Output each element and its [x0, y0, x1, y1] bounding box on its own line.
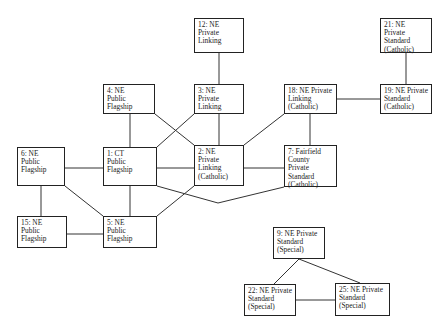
edge-18-2	[244, 114, 284, 145]
node-2: 2: NE Private Linking (Catholic)	[194, 145, 244, 186]
edge-6-5	[65, 186, 103, 216]
edge-9-22	[274, 259, 299, 284]
edge-2-5	[157, 186, 194, 216]
node-5: 5: NE Public Flagship	[103, 216, 157, 248]
node-22: 22: NE Private Standard (Special)	[244, 284, 296, 316]
node-1: 1: CT Public Flagship	[103, 147, 157, 186]
node-21: 21: NE Private Standard (Catholic)	[380, 18, 432, 53]
node-9: 9: NE Private Standard (Special)	[273, 227, 325, 259]
network-diagram: 12: NE Private Linking21: NE Private Sta…	[0, 0, 448, 333]
node-7: 7: Fairfield County Private Standard (Ca…	[284, 145, 337, 187]
node-15: 15: NE Public Flagship	[17, 216, 67, 248]
edge-9-25	[299, 259, 360, 283]
edge-3-1	[157, 114, 194, 147]
node-6: 6: NE Public Flagship	[17, 147, 65, 186]
node-25: 25: NE Private Standard (Special)	[335, 283, 390, 316]
node-18: 18: NE Private Linking (Catholic)	[284, 84, 337, 114]
node-3: 3: NE Private Linking	[194, 84, 244, 114]
node-4: 4: NE Public Flagship	[103, 84, 155, 114]
node-12: 12: NE Private Linking	[194, 18, 244, 53]
node-19: 19: NE Private Standard (Catholic)	[380, 84, 432, 114]
